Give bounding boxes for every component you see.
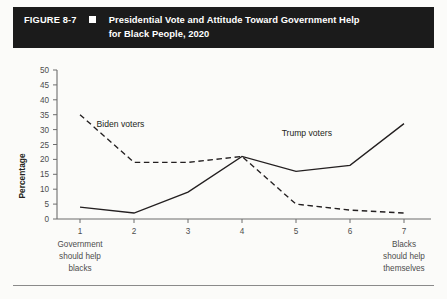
figure-title-line-1: Presidential Vote and Attitude Toward Go…	[109, 14, 360, 25]
y-tick-label: 30	[40, 126, 50, 135]
y-tick-label: 25	[40, 141, 50, 150]
figure-header-bar: FIGURE 8-7 Presidential Vote and Attitud…	[13, 7, 434, 48]
figure-title: Presidential Vote and Attitude Toward Go…	[109, 13, 360, 40]
svg-text:Government: Government	[57, 240, 103, 249]
figure-title-line-2: for Black People, 2020	[109, 28, 210, 39]
svg-text:should help: should help	[383, 252, 425, 261]
x-tick-label: 2	[132, 227, 137, 236]
svg-text:Blacks: Blacks	[392, 240, 416, 249]
y-tick-label: 45	[40, 81, 50, 90]
x-axis-ticks: 1234567	[78, 219, 407, 236]
svg-text:themselves: themselves	[383, 264, 424, 273]
x-axis-anchor-right: Blacks should help themselves	[383, 240, 425, 273]
x-tick-label: 1	[78, 227, 83, 236]
white-square-icon	[89, 16, 96, 23]
y-tick-label: 0	[44, 215, 49, 224]
chart-plot-area: Percentage 05101520253035404550 1234567 …	[0, 48, 447, 288]
x-tick-label: 3	[186, 227, 191, 236]
y-axis-title: Percentage	[17, 153, 27, 198]
series-line-trump-voters	[80, 124, 404, 213]
series-annotation-trump-voters: Trump voters	[282, 128, 332, 138]
y-tick-label: 50	[40, 66, 50, 75]
y-tick-label: 15	[40, 170, 50, 179]
y-tick-label: 5	[44, 200, 49, 209]
line-chart-svg: Percentage 05101520253035404550 1234567 …	[0, 48, 447, 288]
svg-text:blacks: blacks	[68, 264, 91, 273]
y-axis-ticks: 05101520253035404550	[40, 66, 57, 224]
x-tick-label: 5	[294, 227, 299, 236]
x-tick-label: 4	[240, 227, 245, 236]
y-tick-label: 10	[40, 185, 50, 194]
figure-container: FIGURE 8-7 Presidential Vote and Attitud…	[0, 0, 447, 299]
bottom-divider	[13, 285, 434, 286]
x-tick-label: 6	[348, 227, 353, 236]
series-annotation-biden-voters: Biden voters	[97, 119, 145, 129]
svg-text:should help: should help	[59, 252, 101, 261]
y-tick-label: 35	[40, 111, 50, 120]
x-axis-anchor-left: Government should help blacks	[57, 240, 103, 273]
figure-number-label: FIGURE 8-7	[24, 13, 77, 26]
x-tick-label: 7	[402, 227, 407, 236]
y-tick-label: 20	[40, 155, 50, 164]
y-tick-label: 40	[40, 96, 50, 105]
series-line-biden-voters	[80, 115, 404, 213]
